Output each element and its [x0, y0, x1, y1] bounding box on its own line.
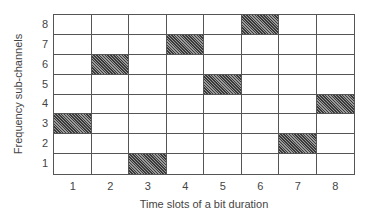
- grid-cell: [204, 35, 242, 55]
- grid-cell: [167, 95, 205, 115]
- grid-cell: [204, 95, 242, 115]
- grid-cell: [129, 75, 167, 95]
- grid-cell: [279, 114, 317, 134]
- x-tick-label: 7: [288, 180, 308, 192]
- y-tick-label: 1: [38, 157, 48, 169]
- y-tick-label: 6: [38, 58, 48, 70]
- grid-cell: [204, 154, 242, 174]
- grid-cell: [129, 15, 167, 35]
- grid-cell: [279, 154, 317, 174]
- grid-cell: [92, 114, 130, 134]
- time-frequency-grid: [53, 14, 355, 175]
- grid-cell: [242, 154, 280, 174]
- y-tick-label: 3: [38, 117, 48, 129]
- grid-cell: [242, 134, 280, 154]
- y-axis-label: Frequency sub-channels: [12, 29, 24, 159]
- x-tick-label: 3: [138, 180, 158, 192]
- grid-cell: [242, 55, 280, 75]
- grid-cell: [129, 114, 167, 134]
- grid-cell: [167, 55, 205, 75]
- y-tick-label: 5: [38, 78, 48, 90]
- grid-cell: [204, 134, 242, 154]
- grid-cell: [242, 75, 280, 95]
- x-tick-label: 2: [100, 180, 120, 192]
- grid-cell: [167, 15, 205, 35]
- grid-cell: [317, 55, 355, 75]
- grid-cell: [129, 55, 167, 75]
- grid-cell: [54, 95, 92, 115]
- grid-cell: [279, 75, 317, 95]
- grid-cell: [92, 95, 130, 115]
- grid-cell-filled: [242, 15, 280, 35]
- grid-cell: [317, 35, 355, 55]
- grid-cell: [54, 75, 92, 95]
- grid-cell-filled: [317, 95, 355, 115]
- grid-cell: [204, 55, 242, 75]
- y-tick-label: 2: [38, 137, 48, 149]
- grid-cell: [279, 35, 317, 55]
- x-tick-label: 4: [175, 180, 195, 192]
- grid-cell: [242, 35, 280, 55]
- grid-cell: [167, 134, 205, 154]
- grid-cell: [279, 95, 317, 115]
- y-tick-label: 7: [38, 38, 48, 50]
- grid-cell-filled: [92, 55, 130, 75]
- x-tick-label: 8: [325, 180, 345, 192]
- x-tick-label: 6: [250, 180, 270, 192]
- grid-cell: [317, 15, 355, 35]
- grid-cell: [54, 55, 92, 75]
- grid-cell: [54, 15, 92, 35]
- grid-cell: [92, 35, 130, 55]
- grid-cell: [167, 75, 205, 95]
- grid-cell: [317, 114, 355, 134]
- grid-cell: [54, 134, 92, 154]
- x-tick-label: 1: [63, 180, 83, 192]
- grid-cell: [129, 35, 167, 55]
- grid-cell: [92, 134, 130, 154]
- grid-cell: [92, 154, 130, 174]
- grid-cell: [92, 15, 130, 35]
- y-tick-label: 4: [38, 97, 48, 109]
- grid-cell-filled: [129, 154, 167, 174]
- x-tick-label: 5: [213, 180, 233, 192]
- grid-cell: [129, 95, 167, 115]
- grid-cell: [92, 75, 130, 95]
- grid-cell: [317, 134, 355, 154]
- grid-cell: [279, 55, 317, 75]
- y-tick-label: 8: [38, 18, 48, 30]
- grid-cell-filled: [204, 75, 242, 95]
- grid-cell: [204, 114, 242, 134]
- grid-cell: [317, 154, 355, 174]
- grid-cell: [279, 15, 317, 35]
- grid-cell-filled: [54, 114, 92, 134]
- grid-cell: [242, 114, 280, 134]
- grid-cell-filled: [167, 35, 205, 55]
- grid-cell-filled: [279, 134, 317, 154]
- grid-cell: [129, 134, 167, 154]
- grid-cell: [242, 95, 280, 115]
- grid-cell: [167, 114, 205, 134]
- x-axis-label: Time slots of a bit duration: [53, 198, 355, 210]
- grid-cell: [204, 15, 242, 35]
- grid-cell: [167, 154, 205, 174]
- grid-cell: [54, 154, 92, 174]
- grid-cell: [317, 75, 355, 95]
- grid-cell: [54, 35, 92, 55]
